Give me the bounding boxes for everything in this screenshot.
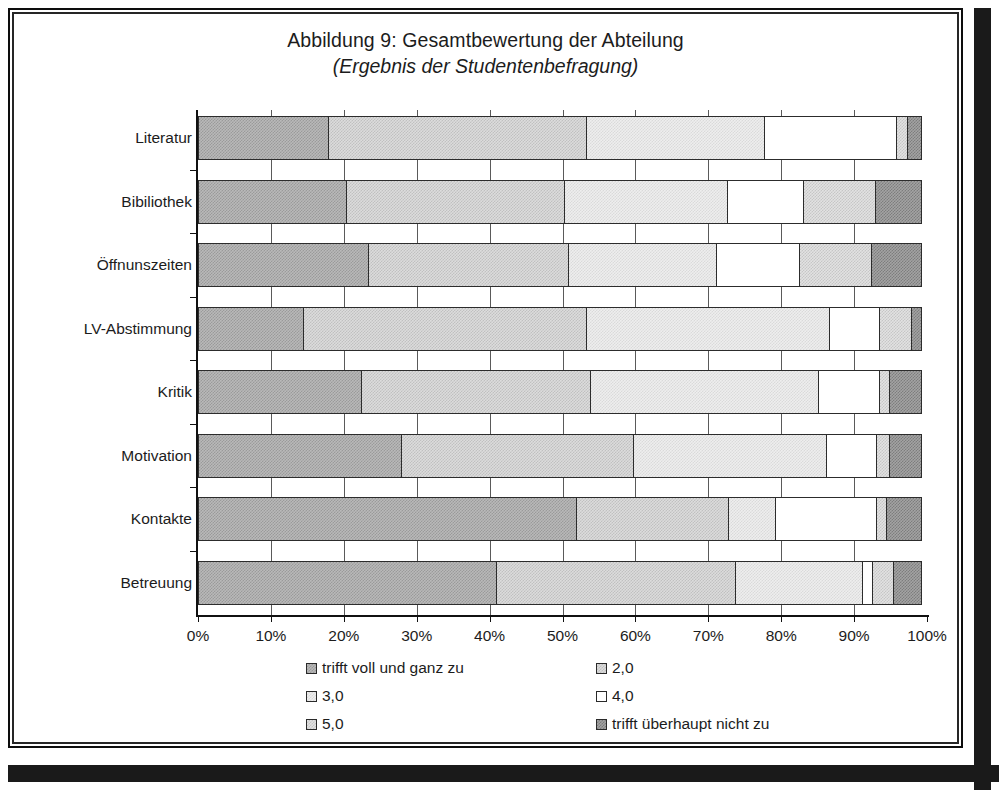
y-axis-tick bbox=[190, 487, 197, 488]
bar-segment bbox=[361, 370, 591, 414]
x-axis-tick bbox=[635, 615, 636, 622]
legend-item: 2,0 bbox=[596, 659, 634, 677]
bar-segment bbox=[590, 370, 820, 414]
bar-segment bbox=[872, 561, 894, 605]
bar-row: Kontakte bbox=[198, 497, 927, 541]
chart-title-block: Abbildung 9: Gesamtbewertung der Abteilu… bbox=[16, 28, 955, 79]
y-axis-tick bbox=[190, 551, 197, 552]
bar-segment bbox=[496, 561, 737, 605]
x-axis-tick bbox=[271, 615, 272, 622]
category-label: Kontakte bbox=[0, 497, 192, 541]
chart-title: Abbildung 9: Gesamtbewertung der Abteilu… bbox=[16, 28, 955, 53]
y-axis-tick bbox=[190, 233, 197, 234]
category-label: Motivation bbox=[0, 434, 192, 478]
legend-swatch-icon bbox=[596, 719, 607, 730]
x-axis-tick-label: 10% bbox=[231, 627, 311, 645]
bar-segment bbox=[911, 307, 922, 351]
bar-row: Literatur bbox=[198, 116, 927, 160]
bar-row: Kritik bbox=[198, 370, 927, 414]
bar-segment bbox=[803, 180, 876, 224]
bar-row: Bibiliothek bbox=[198, 180, 927, 224]
category-label: Betreuung bbox=[0, 561, 192, 605]
x-axis-tick-label: 30% bbox=[377, 627, 457, 645]
page-shadow-right bbox=[974, 8, 991, 790]
bar-segment bbox=[303, 307, 587, 351]
stacked-bar bbox=[198, 561, 927, 605]
x-axis-tick bbox=[417, 615, 418, 622]
bar-segment bbox=[876, 434, 891, 478]
stacked-bar bbox=[198, 243, 927, 287]
bar-row: Betreuung bbox=[198, 561, 927, 605]
bar-segment bbox=[907, 116, 922, 160]
bar-segment bbox=[198, 116, 329, 160]
category-label: Bibiliothek bbox=[0, 180, 192, 224]
category-label: Öffnunszeiten bbox=[0, 243, 192, 287]
stacked-bar bbox=[198, 434, 927, 478]
bar-segment bbox=[871, 243, 922, 287]
bar-segment bbox=[879, 307, 912, 351]
bar-segment bbox=[735, 561, 863, 605]
bar-segment bbox=[829, 307, 880, 351]
bar-segment bbox=[727, 180, 804, 224]
x-axis-tick bbox=[708, 615, 709, 622]
bar-row: LV-Abstimmung bbox=[198, 307, 927, 351]
legend-item: trifft voll und ganz zu bbox=[306, 659, 464, 677]
legend-swatch-icon bbox=[306, 691, 317, 702]
bar-segment bbox=[368, 243, 568, 287]
bar-segment bbox=[564, 180, 728, 224]
bar-segment bbox=[886, 497, 922, 541]
x-axis-tick bbox=[563, 615, 564, 622]
x-axis-tick bbox=[344, 615, 345, 622]
x-axis-tick-label: 80% bbox=[741, 627, 821, 645]
bar-segment bbox=[198, 434, 402, 478]
bar-segment bbox=[198, 243, 369, 287]
category-label: Literatur bbox=[0, 116, 192, 160]
category-label: LV-Abstimmung bbox=[0, 307, 192, 351]
chart-legend: trifft voll und ganz zu2,03,04,05,0triff… bbox=[306, 659, 926, 743]
legend-label: trifft überhaupt nicht zu bbox=[612, 715, 769, 733]
x-axis-tick bbox=[781, 615, 782, 622]
legend-swatch-icon bbox=[596, 691, 607, 702]
bar-segment bbox=[198, 370, 362, 414]
bar-segment bbox=[764, 116, 897, 160]
chart-subtitle: (Ergebnis der Studentenbefragung) bbox=[16, 53, 955, 79]
bar-segment bbox=[875, 180, 922, 224]
bar-segment bbox=[198, 561, 497, 605]
x-axis-tick-label: 100% bbox=[887, 627, 967, 645]
y-axis-tick bbox=[190, 424, 197, 425]
x-axis-tick-label: 50% bbox=[523, 627, 603, 645]
x-axis-tick bbox=[927, 615, 928, 622]
stacked-bar bbox=[198, 116, 927, 160]
bar-segment bbox=[198, 180, 347, 224]
stacked-bar bbox=[198, 307, 927, 351]
bar-segment bbox=[775, 497, 877, 541]
chart-figure: Abbildung 9: Gesamtbewertung der Abteilu… bbox=[16, 16, 955, 740]
category-label: Kritik bbox=[0, 370, 192, 414]
bar-segment bbox=[826, 434, 877, 478]
bar-segment bbox=[889, 370, 922, 414]
legend-item: 4,0 bbox=[596, 687, 634, 705]
legend-label: 4,0 bbox=[612, 687, 634, 705]
legend-label: trifft voll und ganz zu bbox=[322, 659, 464, 677]
plot-area: 0%10%20%30%40%50%60%70%80%90%100% Litera… bbox=[198, 110, 927, 615]
x-axis-tick bbox=[490, 615, 491, 622]
legend-item: 5,0 bbox=[306, 715, 344, 733]
x-axis-tick-label: 60% bbox=[595, 627, 675, 645]
bar-segment bbox=[198, 497, 577, 541]
bar-segment bbox=[893, 561, 922, 605]
bar-segment bbox=[346, 180, 565, 224]
bar-segment bbox=[586, 307, 830, 351]
page-shadow-bottom bbox=[8, 765, 999, 782]
legend-swatch-icon bbox=[596, 663, 607, 674]
x-axis-tick-label: 70% bbox=[668, 627, 748, 645]
bar-segment bbox=[586, 116, 765, 160]
bar-segment bbox=[633, 434, 826, 478]
legend-swatch-icon bbox=[306, 719, 317, 730]
legend-item: trifft überhaupt nicht zu bbox=[596, 715, 769, 733]
bar-segment bbox=[328, 116, 587, 160]
bar-segment bbox=[799, 243, 872, 287]
stacked-bar bbox=[198, 497, 927, 541]
bar-segment bbox=[889, 434, 922, 478]
bar-segment bbox=[728, 497, 775, 541]
